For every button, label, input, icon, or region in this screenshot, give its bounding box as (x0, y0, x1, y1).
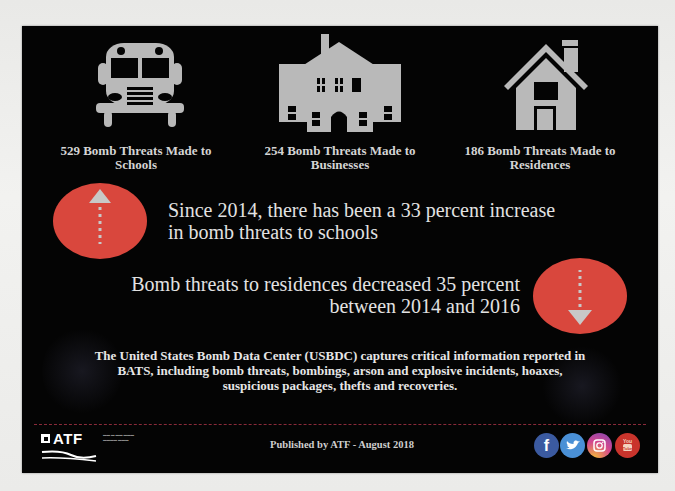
category-label-residences: 186 Bomb Threats Made to Residences (440, 144, 640, 172)
label-line: 254 Bomb Threats Made to (240, 144, 440, 158)
description-line: BATS, including bomb threats, bombings, … (42, 363, 638, 378)
stat-line: between 2014 and 2016 (131, 295, 520, 317)
label-line: Schools (36, 158, 236, 172)
atf-logo: ATF ▬▬ ▬ ▬▬ ▬▬▬▬▬▬▬ ▬▬▬ (41, 432, 151, 462)
svg-text:Tube: Tube (623, 446, 633, 451)
svg-text:You: You (623, 438, 632, 444)
description-line: suspicious packages, thefts and recoveri… (42, 378, 638, 393)
atf-logo-text: ATF (53, 430, 83, 447)
house-icon (496, 36, 606, 136)
decrease-stat-text: Bomb threats to residences decreased 35 … (131, 273, 520, 317)
label-line: 186 Bomb Threats Made to (440, 144, 640, 158)
usbdc-description: The United States Bomb Data Center (USBD… (42, 348, 638, 393)
facebook-icon[interactable]: f (534, 433, 559, 458)
label-line: Businesses (240, 158, 440, 172)
school-bus-icon (90, 35, 190, 135)
label-line: Residences (440, 158, 640, 172)
increase-circle (53, 183, 147, 259)
twitter-icon[interactable] (560, 433, 585, 458)
instagram-icon[interactable] (587, 433, 612, 458)
stat-line: Bomb threats to residences decreased 35 … (131, 273, 520, 295)
description-line: The United States Bomb Data Center (USBD… (42, 348, 638, 363)
infographic-panel: 529 Bomb Threats Made to Schools 254 Bom… (22, 26, 658, 473)
published-by: Published by ATF - August 2018 (252, 439, 432, 450)
decrease-circle (533, 258, 627, 334)
building-icon (277, 32, 402, 137)
stat-line: in bomb threats to schools (168, 221, 555, 243)
youtube-icon[interactable]: YouTube (615, 433, 640, 458)
atf-tagline: ▬▬ ▬ ▬▬ ▬▬▬▬▬▬▬ ▬▬▬ (103, 433, 151, 443)
atf-swoosh-icon (41, 449, 97, 463)
arrow-down-icon (533, 258, 627, 334)
category-label-businesses: 254 Bomb Threats Made to Businesses (240, 144, 440, 172)
atf-star-icon (41, 434, 50, 443)
stat-line: Since 2014, there has been a 33 percent … (168, 199, 555, 221)
label-line: 529 Bomb Threats Made to (36, 144, 236, 158)
arrow-up-icon (53, 183, 147, 259)
category-label-schools: 529 Bomb Threats Made to Schools (36, 144, 236, 172)
dashed-divider (34, 424, 646, 425)
increase-stat-text: Since 2014, there has been a 33 percent … (168, 199, 555, 243)
